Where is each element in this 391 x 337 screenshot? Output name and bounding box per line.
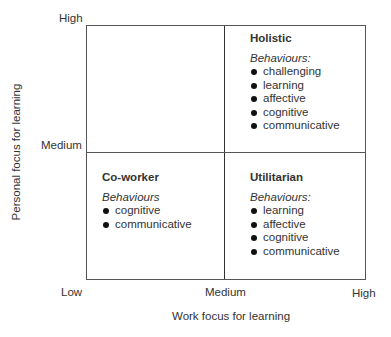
x-axis-title: Work focus for learning [172, 310, 290, 322]
y-tick-medium: Medium [41, 139, 82, 151]
quadrant-subtitle: Behaviours: [250, 52, 340, 66]
list-item: affective [250, 92, 340, 106]
horizontal-divider [87, 152, 365, 153]
list-item: learning [250, 79, 340, 93]
list-item: learning [250, 204, 340, 218]
list-item: cognitive [250, 106, 340, 120]
behaviour-list: learning affective cognitive communicati… [250, 204, 340, 258]
behaviour-list: challenging learning affective cognitive… [250, 65, 340, 133]
list-item: communicative [250, 245, 340, 259]
x-tick-high: High [352, 287, 376, 299]
quadrant-title: Utilitarian [250, 171, 340, 185]
quadrant-subtitle: Behaviours: [250, 191, 340, 205]
x-tick-medium: Medium [205, 286, 246, 298]
list-item: challenging [250, 65, 340, 79]
quadrant-subtitle: Behaviours [102, 191, 192, 205]
x-tick-low: Low [61, 286, 82, 298]
quadrant-holistic: Holistic Behaviours: challenging learnin… [250, 32, 340, 133]
quadrant-utilitarian: Utilitarian Behaviours: learning affecti… [250, 171, 340, 258]
list-item: cognitive [102, 204, 192, 218]
y-axis-title: Personal focus for learning [10, 84, 22, 221]
quadrant-co-worker: Co-worker Behaviours cognitive communica… [102, 171, 192, 231]
list-item: communicative [102, 218, 192, 232]
list-item: affective [250, 218, 340, 232]
y-tick-high: High [59, 12, 83, 24]
behaviour-list: cognitive communicative [102, 204, 192, 231]
quadrant-title: Co-worker [102, 171, 192, 185]
quadrant-title: Holistic [250, 32, 340, 46]
list-item: cognitive [250, 231, 340, 245]
list-item: communicative [250, 119, 340, 133]
